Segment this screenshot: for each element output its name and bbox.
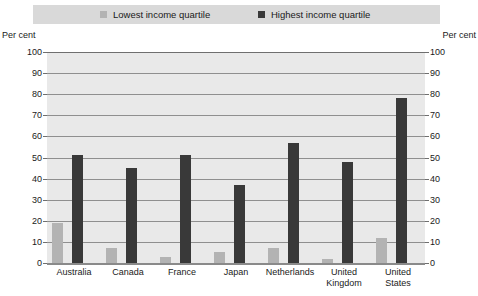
y-tick-mark-right-40 (425, 179, 429, 180)
y-tick-mark-right-90 (425, 73, 429, 74)
bar (396, 98, 407, 263)
y-tick-label-left-0: 0 (37, 259, 42, 268)
y-tick-label-right-20: 20 (430, 217, 440, 226)
y-tick-label-right-80: 80 (430, 90, 440, 99)
y-axis-unit-left: Per cent (2, 30, 36, 40)
y-tick-label-left-10: 10 (32, 238, 42, 247)
y-tick-label-left-40: 40 (32, 175, 42, 184)
y-tick-mark-right-30 (425, 200, 429, 201)
y-tick-mark-right-60 (425, 136, 429, 137)
bar (52, 223, 63, 263)
y-tick-mark-right-10 (425, 242, 429, 243)
bar (126, 168, 137, 263)
y-tick-label-left-20: 20 (32, 217, 42, 226)
bar (342, 162, 353, 263)
legend-label-highest: Highest income quartile (271, 10, 370, 20)
chart-legend: Lowest income quartile Highest income qu… (33, 5, 440, 24)
x-axis-label: United States (371, 267, 425, 289)
y-tick-label-left-50: 50 (32, 154, 42, 163)
bar (180, 155, 191, 263)
bar (72, 155, 83, 263)
bar (268, 248, 279, 263)
x-axis-label: Netherlands (263, 267, 317, 278)
y-tick-label-right-30: 30 (430, 196, 440, 205)
y-tick-label-right-90: 90 (430, 69, 440, 78)
bar-chart: 0010102020303040405050606070708080909010… (47, 52, 425, 263)
y-tick-label-left-30: 30 (32, 196, 42, 205)
bar-group (317, 52, 371, 263)
bar-group (47, 52, 101, 263)
y-tick-mark-left-0 (43, 263, 47, 264)
bar-group (155, 52, 209, 263)
y-tick-mark-right-80 (425, 94, 429, 95)
legend-entry-lowest-income-quartile: Lowest income quartile (100, 10, 210, 20)
x-axis-label: France (155, 267, 209, 278)
legend-entry-highest-income-quartile: Highest income quartile (258, 10, 370, 20)
y-tick-label-left-100: 100 (27, 48, 42, 57)
bar-group (371, 52, 425, 263)
y-axis-unit-right: Per cent (442, 30, 476, 40)
legend-label-lowest: Lowest income quartile (113, 10, 210, 20)
y-tick-label-left-90: 90 (32, 69, 42, 78)
y-tick-label-right-0: 0 (430, 259, 435, 268)
bar-group (263, 52, 317, 263)
bar-group (101, 52, 155, 263)
y-tick-label-right-60: 60 (430, 132, 440, 141)
y-tick-label-left-60: 60 (32, 132, 42, 141)
y-tick-label-left-70: 70 (32, 111, 42, 120)
bar (214, 252, 225, 263)
y-tick-mark-right-70 (425, 115, 429, 116)
y-tick-mark-right-20 (425, 221, 429, 222)
bar (288, 143, 299, 263)
bar (234, 185, 245, 263)
bar-group (209, 52, 263, 263)
x-axis-label: Australia (47, 267, 101, 278)
legend-swatch-lowest-icon (100, 11, 107, 18)
x-axis-label: United Kingdom (317, 267, 371, 289)
y-tick-label-right-10: 10 (430, 238, 440, 247)
y-tick-label-right-70: 70 (430, 111, 440, 120)
y-tick-label-left-80: 80 (32, 90, 42, 99)
bar (322, 259, 333, 263)
bar (106, 248, 117, 263)
y-tick-mark-right-50 (425, 158, 429, 159)
y-tick-mark-right-100 (425, 52, 429, 53)
bar (160, 257, 171, 263)
y-tick-label-right-100: 100 (430, 48, 445, 57)
y-tick-label-right-50: 50 (430, 154, 440, 163)
legend-swatch-highest-icon (258, 11, 265, 18)
y-tick-label-right-40: 40 (430, 175, 440, 184)
bar (376, 238, 387, 263)
y-tick-mark-right-0 (425, 263, 429, 264)
x-axis-label: Japan (209, 267, 263, 278)
x-axis-label: Canada (101, 267, 155, 278)
